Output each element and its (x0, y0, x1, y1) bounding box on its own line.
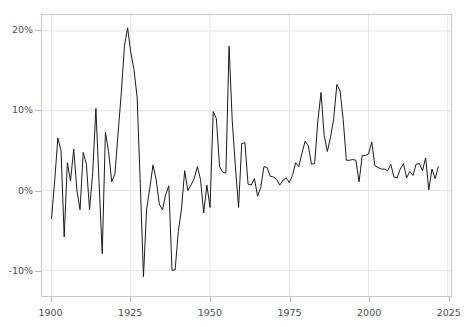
y-tick-mark (35, 110, 41, 111)
x-tick-label: 2000 (357, 307, 381, 318)
y-tick-mark (35, 271, 41, 272)
y-tick-label: 10% (12, 105, 33, 115)
x-tick-mark (369, 297, 370, 302)
y-tick-label: 20% (12, 25, 33, 35)
y-axis-tick-labels: 20%10%0%-10% (0, 0, 33, 327)
y-tick-mark (35, 191, 41, 192)
x-tick-label: 1925 (118, 307, 142, 318)
x-tick-mark (210, 297, 211, 302)
x-tick-mark (449, 297, 450, 302)
x-tick-mark (290, 297, 291, 302)
y-tick-mark (35, 30, 41, 31)
x-tick-label: 1975 (277, 307, 301, 318)
x-tick-label: 1900 (38, 307, 62, 318)
x-axis-tick-labels: 190019251950197520002025 (0, 301, 473, 321)
y-tick-label: 0% (18, 186, 33, 196)
inflation-line-series (42, 15, 451, 296)
inflation-chart: 20%10%0%-10% 190019251950197520002025 (0, 0, 473, 327)
plot-area (41, 14, 452, 297)
x-tick-mark (130, 297, 131, 302)
x-tick-mark (51, 297, 52, 302)
x-tick-label: 1950 (198, 307, 222, 318)
y-tick-label: -10% (8, 266, 33, 276)
x-tick-label: 2025 (437, 307, 461, 318)
